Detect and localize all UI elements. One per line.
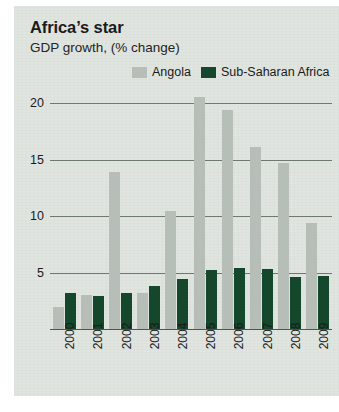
bar-groups [50,104,332,330]
x-tick-label: 2007 [262,323,274,350]
x-tick-2000: 2000 [50,334,78,378]
x-tick-2001: 2001 [78,334,106,378]
legend-swatch-sub-saharan-africa [201,67,216,78]
x-tick-2003: 2003 [135,334,163,378]
y-axis-label-10: 10 [30,210,44,223]
plot-area: 05101520 [50,104,332,330]
bar-angola-2005 [194,97,205,330]
legend-item-angola: Angola [132,66,191,79]
x-tick-label: 2009 [318,323,330,350]
bar-group-2002 [106,104,134,330]
bar-angola-2000 [53,307,64,330]
chart-figure: Africa’s star GDP growth, (% change) Ang… [0,0,339,412]
x-axis-tick-labels: 2000200120022003200420052006200720082009 [50,334,332,378]
y-axis-label-5: 5 [37,266,44,279]
bar-sub-saharan-africa-2007 [262,269,273,330]
legend-swatch-angola [132,67,147,78]
bar-sub-saharan-africa-2005 [206,270,217,330]
bar-angola-2009 [306,223,317,330]
x-tick-label: 2002 [121,323,133,350]
chart-legend: Angola Sub-Saharan Africa [132,66,329,79]
x-tick-label: 2005 [205,323,217,350]
bar-group-2003 [135,104,163,330]
bar-group-2009 [304,104,332,330]
bar-group-2008 [276,104,304,330]
x-tick-label: 2001 [92,323,104,350]
y-axis-label-20: 20 [30,97,44,110]
x-tick-2004: 2004 [163,334,191,378]
bar-group-2004 [163,104,191,330]
x-tick-label: 2000 [64,323,76,350]
x-tick-label: 2004 [177,323,189,350]
x-tick-label: 2006 [233,323,245,350]
x-tick-2005: 2005 [191,334,219,378]
x-tick-2009: 2009 [304,334,332,378]
x-tick-label: 2008 [290,323,302,350]
x-tick-2006: 2006 [219,334,247,378]
bar-group-2005 [191,104,219,330]
x-tick-2002: 2002 [106,334,134,378]
x-tick-2008: 2008 [276,334,304,378]
bar-sub-saharan-africa-2006 [234,268,245,330]
legend-label-sub-saharan-africa: Sub-Saharan Africa [221,66,329,79]
chart-subtitle: GDP growth, (% change) [30,40,180,55]
bar-angola-2007 [250,147,261,330]
y-axis-label-0: 0 [37,323,44,336]
x-tick-2007: 2007 [247,334,275,378]
bar-group-2007 [247,104,275,330]
bar-angola-2008 [278,163,289,330]
bar-group-2001 [78,104,106,330]
legend-item-sub-saharan-africa: Sub-Saharan Africa [201,66,329,79]
bar-angola-2004 [165,211,176,330]
y-axis-label-15: 15 [30,153,44,166]
bar-angola-2006 [222,110,233,330]
bar-group-2000 [50,104,78,330]
chart-title: Africa’s star [30,18,123,37]
bar-group-2006 [219,104,247,330]
bar-angola-2003 [137,293,148,330]
bar-angola-2002 [109,172,120,330]
legend-label-angola: Angola [152,66,191,79]
x-tick-label: 2003 [149,323,161,350]
